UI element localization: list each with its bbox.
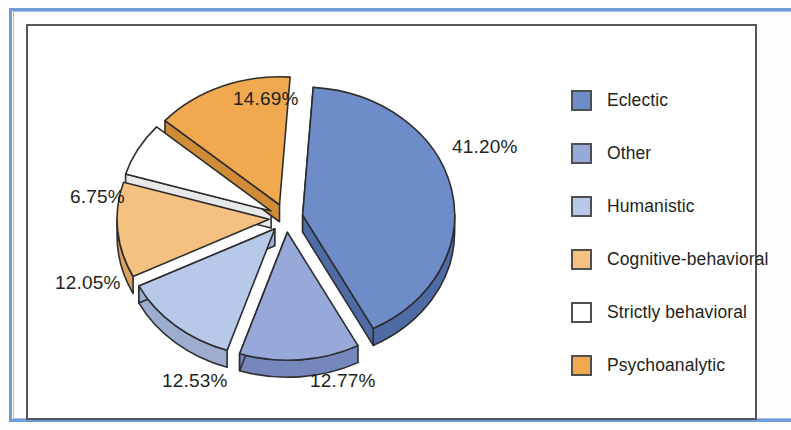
legend-swatch-icon xyxy=(571,143,592,164)
legend-item-label: Strictly behavioral xyxy=(607,302,747,323)
legend-item: Other xyxy=(571,127,791,180)
legend-item: Cognitive-behavioral xyxy=(571,233,791,286)
legend-swatch-icon xyxy=(571,90,592,111)
pie-slice-percentage: 6.75% xyxy=(70,186,125,208)
pie-slice-percentage: 12.77% xyxy=(310,370,376,392)
pie-slice-percentage: 14.69% xyxy=(233,88,299,110)
legend-item: Eclectic xyxy=(571,74,791,127)
chart-legend: EclecticOtherHumanisticCognitive-behavio… xyxy=(571,74,791,392)
chart-page: 41.20%14.69%6.75%12.05%12.53%12.77% Ecle… xyxy=(0,0,791,430)
pie-slice-percentage: 12.53% xyxy=(162,370,228,392)
legend-item-label: Cognitive-behavioral xyxy=(607,249,769,270)
legend-item: Psychoanalytic xyxy=(571,339,791,392)
legend-item-label: Psychoanalytic xyxy=(607,355,725,376)
legend-item-label: Other xyxy=(607,143,651,164)
legend-swatch-icon xyxy=(571,196,592,217)
pie-slice-percentage: 41.20% xyxy=(452,136,518,158)
legend-item-label: Eclectic xyxy=(607,90,668,111)
legend-item: Humanistic xyxy=(571,180,791,233)
legend-item: Strictly behavioral xyxy=(571,286,791,339)
chart-frame: 41.20%14.69%6.75%12.05%12.53%12.77% Ecle… xyxy=(26,24,757,420)
legend-swatch-icon xyxy=(571,355,592,376)
legend-swatch-icon xyxy=(571,302,592,323)
pie-slice-percentage: 12.05% xyxy=(55,272,121,294)
legend-item-label: Humanistic xyxy=(607,196,695,217)
legend-swatch-icon xyxy=(571,249,592,270)
